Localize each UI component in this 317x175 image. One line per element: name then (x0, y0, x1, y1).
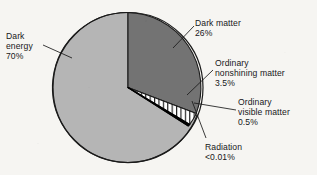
label-radiation-line1: Radiation (205, 142, 242, 152)
label-radiation-value: <0.01% (205, 152, 242, 162)
label-visible-line1: Ordinary (238, 97, 290, 107)
label-nonshining-line1: Ordinary (215, 58, 285, 68)
label-visible-line2: visible matter (238, 107, 290, 117)
label-dark-energy-line1: Dark (6, 31, 33, 41)
label-ordinary-nonshining-matter: Ordinary nonshining matter 3.5% (215, 58, 285, 89)
label-dark-energy: Dark energy 70% (6, 31, 33, 62)
label-visible-value: 0.5% (238, 117, 290, 127)
label-dark-matter-value: 26% (195, 28, 241, 38)
pie-chart-figure: Dark energy 70% Dark matter 26% Ordinary… (0, 0, 317, 175)
label-ordinary-visible-matter: Ordinary visible matter 0.5% (238, 97, 290, 128)
label-radiation: Radiation <0.01% (205, 142, 242, 162)
label-nonshining-value: 3.5% (215, 78, 285, 88)
label-nonshining-line2: nonshining matter (215, 68, 285, 78)
label-dark-energy-value: 70% (6, 51, 33, 61)
label-dark-matter-line1: Dark matter (195, 18, 241, 28)
label-dark-matter: Dark matter 26% (195, 18, 241, 38)
label-dark-energy-line2: energy (6, 41, 33, 51)
